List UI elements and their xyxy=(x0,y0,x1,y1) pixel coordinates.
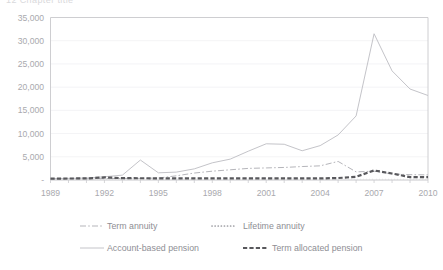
y-axis-tick-label: 10,000 xyxy=(18,129,45,139)
y-axis-tick-label: 30,000 xyxy=(18,36,45,46)
x-axis-tick-label: 1989 xyxy=(41,188,60,198)
x-axis-tick-label: 1995 xyxy=(149,188,168,198)
x-axis-tick-label: 2007 xyxy=(365,188,384,198)
x-axis-tick-label: 1998 xyxy=(203,188,222,198)
series-line-term-allocated-pension xyxy=(51,170,429,178)
gridlines xyxy=(51,41,429,180)
y-axis-tick-label: 5,000 xyxy=(22,152,44,162)
legend-label-term-annuity: Term annuity xyxy=(107,221,158,231)
x-axis-tick-label: 2004 xyxy=(311,188,330,198)
y-axis-tick-label: 20,000 xyxy=(18,82,45,92)
legend-label-lifetime-annuity: Lifetime annuity xyxy=(243,221,305,231)
series-plot-area xyxy=(51,34,429,180)
y-axis-tick-label: 35,000 xyxy=(18,13,45,23)
x-axis-tick-label: 1992 xyxy=(95,188,114,198)
y-axis-tick-label: 25,000 xyxy=(18,59,45,69)
axis-lines xyxy=(51,18,429,184)
x-axis-tick-label: 2010 xyxy=(418,188,437,198)
y-axis-tick-label: 15,000 xyxy=(18,105,45,115)
line-chart: -5,00010,00015,00020,00025,00030,00035,0… xyxy=(0,0,443,270)
legend-label-term-allocated-pension: Term allocated pension xyxy=(272,243,363,253)
x-axis-tick-labels: 19891992199519982001200420072010 xyxy=(41,188,438,198)
y-axis-tick-label: - xyxy=(41,175,44,185)
chart-figure: 12 Chapter title -5,00010,00015,00020,00… xyxy=(0,0,443,270)
x-axis-tick-label: 2001 xyxy=(257,188,276,198)
legend-label-account-based-pension: Account-based pension xyxy=(107,243,199,253)
y-axis-tick-labels: -5,00010,00015,00020,00025,00030,00035,0… xyxy=(18,13,45,186)
chart-legend: Term annuityLifetime annuityAccount-base… xyxy=(80,221,363,253)
